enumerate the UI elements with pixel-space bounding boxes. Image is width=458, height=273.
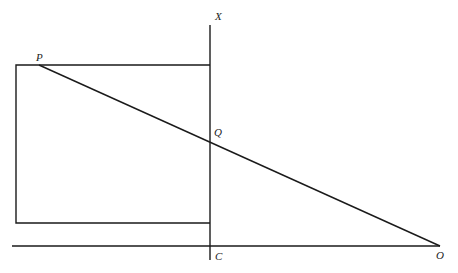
label-o: O xyxy=(436,249,444,261)
line-p-o xyxy=(39,65,440,246)
label-q: Q xyxy=(214,126,222,138)
label-c: C xyxy=(215,250,223,262)
label-x: X xyxy=(214,10,223,22)
rectangle xyxy=(16,65,210,223)
label-p: P xyxy=(35,51,43,63)
geometry-diagram: X P Q C O xyxy=(0,0,458,273)
